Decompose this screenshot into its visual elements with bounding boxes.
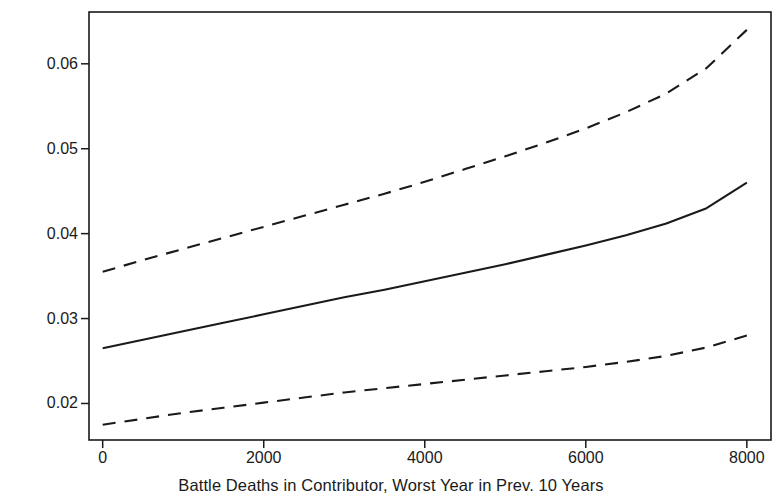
chart-figure: Expected Proportion of Female Military P… [0,0,782,504]
data-series-lines [103,30,747,425]
plot-area [0,0,782,504]
axis-frame [89,12,771,440]
series-line-1 [103,183,747,349]
axis-tick-marks [81,64,747,448]
series-line-2 [103,336,747,425]
series-line-0 [103,30,747,272]
plot-border [89,12,771,440]
